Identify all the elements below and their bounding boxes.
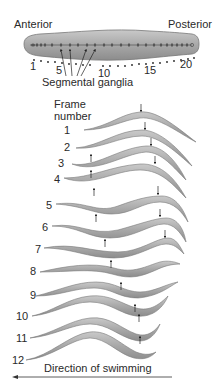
leech-body <box>24 30 199 76</box>
frame-number-4: 4 <box>54 173 60 185</box>
segment-number-10: 10 <box>98 67 110 79</box>
frame-number-3: 3 <box>58 157 64 169</box>
posterior-label: Posterior <box>168 18 212 30</box>
frame-number-12: 12 <box>12 354 24 366</box>
direction-arrow <box>12 375 172 379</box>
frame-number-5: 5 <box>46 199 52 211</box>
swimming-frames <box>26 112 196 360</box>
frame-number-10: 10 <box>16 310 28 322</box>
frame-number-1: 1 <box>64 124 70 136</box>
frame-number-6: 6 <box>42 221 48 233</box>
frame-header-line1: Frame <box>54 98 86 110</box>
segment-number-20: 20 <box>180 58 192 70</box>
frame-number-7: 7 <box>35 243 41 255</box>
frame-header-line2: number <box>54 110 91 122</box>
anterior-label: Anterior <box>14 18 53 30</box>
segmental-ganglia-label: Segmental ganglia <box>42 76 133 88</box>
frame-number-2: 2 <box>64 141 70 153</box>
frame-number-11: 11 <box>16 332 27 344</box>
frame-number-8: 8 <box>30 265 36 277</box>
frame-number-9: 9 <box>30 289 36 301</box>
segment-number-5: 5 <box>56 64 62 76</box>
direction-label: Direction of swimming <box>44 362 152 374</box>
segment-number-15: 15 <box>144 64 156 76</box>
segment-number-1: 1 <box>30 60 36 72</box>
